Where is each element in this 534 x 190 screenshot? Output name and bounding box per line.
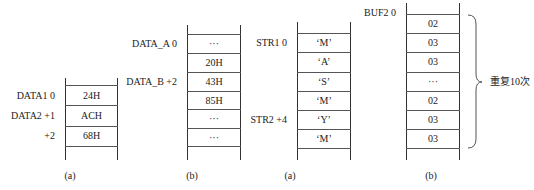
figure-caption: (b) bbox=[416, 171, 446, 181]
repeat-note: 重复10次 bbox=[490, 77, 530, 87]
curly-brace-icon bbox=[0, 0, 534, 190]
